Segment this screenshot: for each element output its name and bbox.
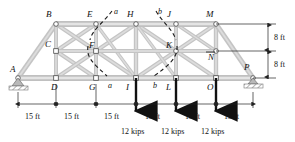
joint-label-E: E [86,9,93,19]
joint-label-A: A [9,64,16,74]
joint-label-K: K [165,40,173,50]
joint-label-I: I [125,82,130,92]
dim-label-3: 15 ft [104,112,120,121]
joint-J [174,22,179,27]
joint-label-B: B [46,9,52,19]
dim-label-v2: 8 ft [274,60,286,69]
dim-label-6: 15 ft [224,112,240,121]
truss-diagram: A B C D E F G H I J K L M N O P a a b b [0,0,295,142]
load-label-O: 12 kips [201,127,224,136]
joint-B [54,22,59,27]
truss-svg: A B C D E F G H I J K L M N O P a a b b [0,0,295,142]
dim-label-v1: 8 ft [274,33,286,42]
joint-K [174,49,179,54]
joint-label-F: F [88,40,95,50]
load-labels: 12 kips 12 kips 12 kips [121,127,224,136]
joint-label-C: C [45,39,52,49]
joint-label-G: G [89,82,96,92]
section-label-a-top: a [114,7,118,16]
dim-label-2: 15 ft [64,112,80,121]
section-label-b-bottom: b [153,81,157,90]
joint-label-J: J [167,9,172,19]
dim-label-1: 15 ft [25,112,41,121]
joint-G [94,76,99,81]
load-label-L: 12 kips [161,127,184,136]
joint-E [94,22,99,27]
dim-label-4: 15 ft [145,112,161,121]
joint-label-P: P [243,62,250,72]
dim-label-5: 15 ft [185,112,201,121]
joint-label-M: M [205,9,214,19]
section-label-a-bottom: a [108,81,112,90]
joint-label-D: D [50,82,58,92]
joint-label-N: N [207,52,215,62]
joint-C [54,49,59,54]
load-label-I: 12 kips [121,127,144,136]
joint-label-H: H [126,9,134,19]
joint-H [134,22,139,27]
section-label-b-top: b [158,7,162,16]
joint-label-L: L [165,82,171,92]
joint-D [54,76,59,81]
joint-label-O: O [207,82,214,92]
